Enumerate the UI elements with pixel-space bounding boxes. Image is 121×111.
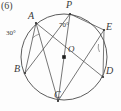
- vertex-dot-D: [102, 76, 104, 78]
- vertex-dot-B: [24, 72, 26, 74]
- problem-number-label: (6): [1, 1, 13, 11]
- vertex-dot-E: [103, 29, 105, 31]
- center-label-O: O: [68, 45, 75, 54]
- vertex-dot-P: [69, 13, 71, 15]
- point-label-A: A: [28, 11, 34, 21]
- angle-label-at-A: 30°: [6, 30, 16, 37]
- point-label-B: B: [14, 64, 20, 74]
- chord-ED: [103, 30, 104, 77]
- vertex-dot-C: [57, 100, 59, 102]
- angle-arc-at-E: [98, 44, 99, 52]
- center-marker-group: [62, 55, 66, 59]
- vertex-dot-A: [35, 22, 37, 24]
- chord-CE: [58, 30, 104, 101]
- point-label-D: D: [106, 66, 113, 76]
- angle-label-at-P: 70°: [59, 22, 69, 29]
- geometry-figure: (6) P A E B D C O 30° 70°: [0, 0, 121, 111]
- point-label-P: P: [66, 0, 72, 10]
- point-label-E: E: [106, 22, 112, 32]
- center-dot-O: [62, 55, 66, 59]
- point-label-C: C: [54, 90, 61, 100]
- chord-PE: [70, 14, 104, 30]
